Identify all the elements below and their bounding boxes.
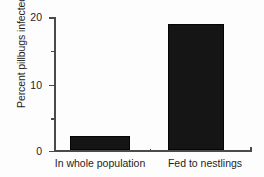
x-axis-category-label-0: In whole population [55, 157, 146, 169]
x-axis-end-tick [250, 147, 252, 152]
y-tick-major-20: 20 [49, 17, 55, 19]
y-tick-major-0: 0 [49, 151, 55, 153]
y-tick-minor-15 [51, 51, 55, 53]
bar-chart-figure: Percent pillbugs infected 20 10 0 In who… [0, 0, 264, 177]
y-tick-minor-5 [51, 118, 55, 120]
x-axis-mid-tick [150, 149, 151, 152]
plot-area: 20 10 0 [54, 17, 252, 152]
y-tick-label-0: 0 [36, 145, 42, 156]
y-tick-label-10: 10 [30, 79, 42, 90]
bar-in-whole-population [70, 136, 130, 150]
x-axis-line [54, 150, 252, 152]
bar-fed-to-nestlings [168, 24, 224, 150]
y-tick-major-10: 10 [49, 85, 55, 87]
y-tick-label-20: 20 [30, 12, 42, 23]
x-axis-category-label-1: Fed to nestlings [168, 157, 242, 169]
y-axis-title: Percent pillbugs infected [15, 0, 27, 127]
